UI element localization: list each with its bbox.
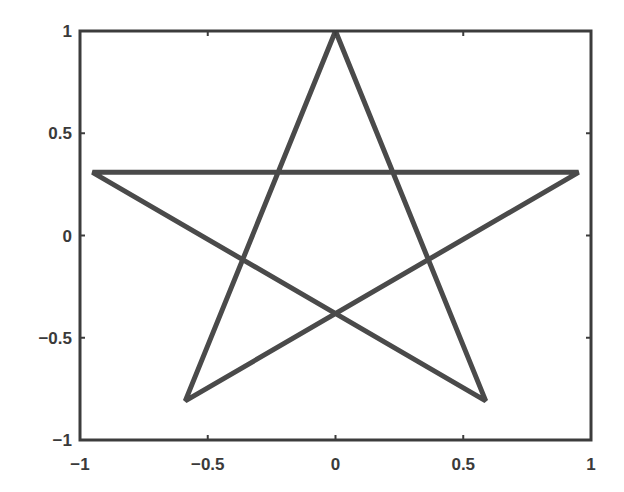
- x-tick-label: −0.5: [191, 455, 225, 474]
- x-tick-label: 1: [586, 455, 595, 474]
- axes-frame: [80, 31, 591, 440]
- x-tick-label: −1: [70, 455, 89, 474]
- y-tick-label: −0.5: [38, 329, 72, 348]
- y-tick-label: 1: [63, 22, 72, 41]
- y-axis-tick-labels: −1−0.500.51: [38, 22, 72, 450]
- x-axis-tick-labels: −1−0.500.51: [70, 455, 595, 474]
- y-tick-label: 0.5: [48, 124, 72, 143]
- y-tick-label: 0: [63, 227, 72, 246]
- pentagram-line: [93, 31, 579, 401]
- x-tick-label: 0: [331, 455, 340, 474]
- x-axis-ticks: [80, 31, 591, 440]
- series-pentagram: [93, 31, 579, 401]
- y-axis-ticks: [80, 31, 591, 440]
- x-tick-label: 0.5: [451, 455, 475, 474]
- chart-figure: −1−0.500.51 −1−0.500.51: [0, 0, 624, 492]
- y-tick-label: −1: [53, 431, 72, 450]
